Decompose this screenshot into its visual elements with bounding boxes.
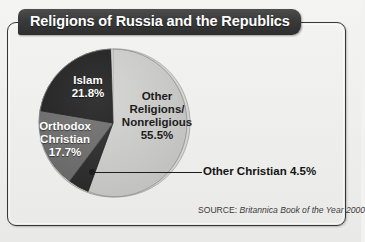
callout-leader-line bbox=[92, 172, 202, 173]
source-label: SOURCE: bbox=[198, 205, 237, 215]
source-note: SOURCE: Britannica Book of the Year 2000 bbox=[198, 205, 365, 215]
pie-label-other-religions: Other Religions/ Nonreligious 55.5% bbox=[118, 90, 196, 142]
page-title: Religions of Russia and the Republics bbox=[30, 13, 290, 29]
title-tab: Religions of Russia and the Republics bbox=[18, 9, 301, 35]
pie-label-orthodox-christian: Orthodox Christian 17.7% bbox=[22, 120, 108, 159]
pie-label-other-christian: Other Christian 4.5% bbox=[203, 165, 316, 177]
pie-label-islam: Islam 21.8% bbox=[52, 74, 124, 100]
source-publication: Britannica Book of the Year 2000 bbox=[240, 205, 365, 215]
